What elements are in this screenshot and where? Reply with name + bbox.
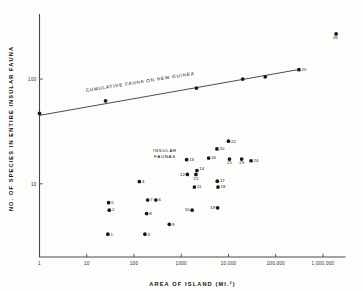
data-point[interactable] [154,198,158,202]
data-point[interactable] [185,158,189,162]
data-point-label: 19 [210,205,215,210]
insular-faunas-label-line2: FAUNAS [154,154,176,159]
data-point[interactable] [186,173,190,177]
data-point[interactable] [227,139,231,143]
x-axis-tick-label: 100 [130,261,139,266]
data-point-label: 5 [111,200,114,205]
x-axis-tick-label: 1000 [176,261,187,266]
data-point[interactable] [249,159,253,163]
data-point[interactable] [190,208,194,212]
data-point-label: 3 [147,232,150,237]
data-point-label: 20 [220,146,225,151]
data-point-label: 15 [194,176,199,181]
axes-frame [40,14,346,257]
data-point[interactable] [215,147,219,151]
insular-faunas-label-line1: INSULAR [153,148,177,153]
data-point-label: 8 [149,211,152,216]
data-point-label: 9 [172,222,175,227]
y-axis-tick-label: 100 [28,77,37,82]
data-point-label: 16 [211,155,216,160]
data-point-label: 22 [231,139,236,144]
data-point[interactable] [195,169,199,173]
x-axis-tick-label: 1,000,000 [312,261,335,266]
data-point-label: 25 [302,67,307,72]
data-point-label: 12 [180,172,185,177]
data-point[interactable] [216,185,220,189]
data-point-label: 14 [199,166,204,171]
x-axis-tick-label: 1 [38,261,41,266]
data-point-label: 24 [254,158,259,163]
data-point[interactable] [143,232,147,236]
x-axis-tick-label: 10 [84,261,90,266]
scatter-plot-figure: 110100100010,000100,0001,000,00010100ARE… [0,0,363,291]
data-point-label: 11 [197,184,202,189]
data-point[interactable] [215,179,219,183]
data-point[interactable] [263,75,267,79]
data-point[interactable] [297,68,301,72]
data-point-label: 10 [185,207,190,212]
data-point-label: 21 [227,160,232,165]
y-axis-tick-label: 10 [31,182,37,187]
data-point[interactable] [193,185,197,189]
data-point-label: 17 [220,178,225,183]
x-axis-tick-label: 100,000 [267,261,286,266]
plot-canvas: 110100100010,000100,0001,000,00010100ARE… [0,0,363,291]
data-point[interactable] [38,112,42,116]
cumulative-fauna-line-label: CUMULATIVE FAUNA ON NEW GUINEA [85,71,195,93]
data-point[interactable] [207,156,211,160]
data-point[interactable] [216,206,220,210]
data-point[interactable] [241,77,245,81]
data-point-label: 7 [150,197,153,202]
data-point-label: 2 [112,207,115,212]
data-point[interactable] [145,212,149,216]
data-point-label: 6 [158,197,161,202]
x-axis-title: AREA OF ISLAND (MI.2) [149,281,235,287]
data-point[interactable] [167,222,171,226]
data-point[interactable] [138,180,142,184]
data-point[interactable] [107,208,111,212]
data-point[interactable] [104,99,108,103]
data-point-label: 4 [142,179,145,184]
data-point[interactable] [106,232,110,236]
data-point-label: 1 [110,232,113,237]
x-axis-tick-label: 10,000 [221,261,237,266]
data-point-label: 23 [239,160,244,165]
data-point-label: 13 [189,157,194,162]
data-point[interactable] [146,198,150,202]
y-axis-title: NO. OF SPECIES IN ENTIRE INSULAR FAUNA [8,46,14,211]
data-point[interactable] [195,86,199,90]
data-point-label: 18 [221,184,226,189]
data-point[interactable] [107,201,111,205]
data-point-label: 26 [333,35,338,40]
